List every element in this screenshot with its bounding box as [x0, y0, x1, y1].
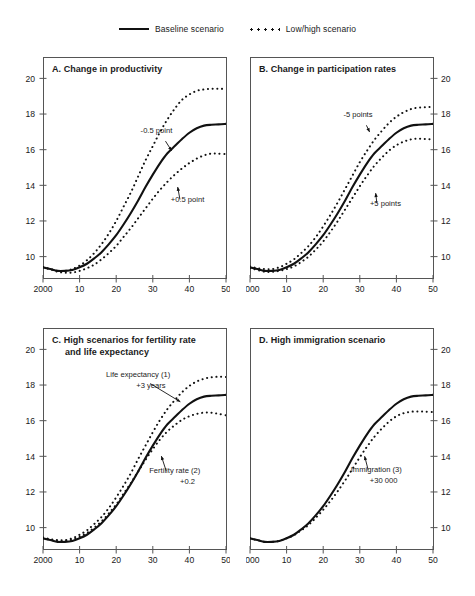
- y-tick-label: 12: [25, 216, 35, 226]
- chart-panel-a: 10121416182020001020304050A. Change in p…: [15, 55, 230, 294]
- chart-annotation-label: Life expectancy (1): [106, 370, 171, 379]
- y-tick-label: 20: [441, 74, 451, 84]
- annotation-arrow-head: [161, 456, 164, 460]
- panel-title: D. High immigration scenario: [259, 335, 386, 345]
- y-tick-label: 12: [441, 487, 451, 497]
- chart-svg-b: 10121416182020001020304050B. Change in p…: [246, 55, 463, 294]
- panel-title: A. Change in productivity: [52, 64, 162, 74]
- panel-title-line: C. High scenarios for fertility rate: [52, 335, 196, 345]
- panel-title-line: B. Change in participation rates: [259, 64, 396, 74]
- x-tick-label: 2000: [246, 555, 260, 565]
- y-tick-label: 16: [25, 145, 35, 155]
- legend-label-lowhigh: Low/high scenario: [286, 24, 356, 34]
- figure-root: Baseline scenario Low/high scenario 1012…: [0, 0, 475, 596]
- panel-title: B. Change in participation rates: [259, 64, 396, 74]
- legend-label-baseline: Baseline scenario: [155, 24, 224, 34]
- chart-annotation-label: +0.5 point: [171, 195, 205, 204]
- x-tick-label: 50: [428, 284, 438, 294]
- plot-frame: [251, 329, 434, 550]
- y-tick-label: 20: [25, 345, 35, 355]
- chart-annotation-label: +30 000: [370, 476, 398, 485]
- y-tick-label: 18: [25, 109, 35, 119]
- y-tick-label: 10: [25, 252, 35, 262]
- y-tick-label: 12: [25, 487, 35, 497]
- chart-annotation-label: +0.2: [180, 477, 195, 486]
- series-line-scenario: [43, 377, 226, 540]
- legend-item-baseline: Baseline scenario: [119, 24, 224, 34]
- y-tick-label: 16: [441, 416, 451, 426]
- dotted-line-icon: [250, 28, 280, 31]
- annotation-arrow-head: [177, 187, 180, 191]
- panel-title: C. High scenarios for fertility rateand …: [52, 335, 196, 357]
- x-tick-label: 50: [428, 555, 438, 565]
- series-group: [250, 107, 433, 272]
- x-tick-label: 2000: [33, 555, 52, 565]
- y-tick-label: 16: [25, 416, 35, 426]
- chart-annotation-label: +5 points: [370, 199, 401, 208]
- figure-legend: Baseline scenario Low/high scenario: [0, 20, 475, 38]
- y-tick-label: 10: [25, 523, 35, 533]
- x-tick-label: 10: [282, 555, 292, 565]
- x-tick-label: 20: [318, 555, 328, 565]
- panel-title-line: D. High immigration scenario: [259, 335, 386, 345]
- y-tick-label: 10: [441, 523, 451, 533]
- series-group: [43, 377, 226, 542]
- y-tick-label: 14: [25, 452, 35, 462]
- y-tick-label: 20: [441, 345, 451, 355]
- x-tick-label: 50: [221, 555, 230, 565]
- x-tick-label: 10: [75, 284, 85, 294]
- chart-annotation-label: -0.5 point: [141, 126, 174, 135]
- y-tick-label: 18: [25, 380, 35, 390]
- x-tick-label: 20: [318, 284, 328, 294]
- chart-annotation-label: -5 points: [343, 110, 372, 119]
- x-tick-label: 50: [221, 284, 230, 294]
- plot-frame: [44, 329, 227, 550]
- series-line-baseline: [250, 395, 433, 542]
- panel-title-line: A. Change in productivity: [52, 64, 162, 74]
- plot-frame: [251, 58, 434, 279]
- x-tick-label: 20: [111, 555, 121, 565]
- x-tick-label: 20: [111, 284, 121, 294]
- solid-line-icon: [119, 28, 149, 30]
- x-tick-label: 30: [148, 284, 158, 294]
- y-tick-label: 10: [441, 252, 451, 262]
- y-tick-label: 18: [441, 380, 451, 390]
- y-tick-label: 12: [441, 216, 451, 226]
- x-tick-label: 10: [282, 284, 292, 294]
- x-tick-label: 40: [185, 555, 195, 565]
- chart-svg-a: 10121416182020001020304050A. Change in p…: [15, 55, 230, 294]
- chart-svg-d: 10121416182020001020304050D. High immigr…: [246, 326, 463, 565]
- x-tick-label: 30: [148, 555, 158, 565]
- x-tick-label: 40: [392, 555, 402, 565]
- x-tick-label: 30: [355, 284, 365, 294]
- x-tick-label: 2000: [33, 284, 52, 294]
- chart-annotation-label: Fertility rate (2): [149, 466, 201, 475]
- chart-annotation-label: +3 years: [136, 381, 166, 390]
- y-tick-label: 14: [441, 452, 451, 462]
- series-line-scenario: [43, 153, 226, 272]
- y-tick-label: 14: [25, 181, 35, 191]
- y-tick-label: 18: [441, 109, 451, 119]
- series-line-baseline: [250, 124, 433, 271]
- y-tick-label: 16: [441, 145, 451, 155]
- series-group: [250, 395, 433, 542]
- y-tick-label: 14: [441, 181, 451, 191]
- chart-panel-c: 10121416182020001020304050C. High scenar…: [15, 326, 230, 565]
- series-group: [43, 89, 226, 273]
- x-tick-label: 40: [185, 284, 195, 294]
- x-tick-label: 40: [392, 284, 402, 294]
- chart-annotation-label: Immigration (3): [351, 465, 403, 474]
- series-line-scenario: [250, 107, 433, 269]
- series-line-scenario: [43, 89, 226, 271]
- chart-svg-c: 10121416182020001020304050C. High scenar…: [15, 326, 230, 565]
- panel-title-line: and life expectancy: [65, 347, 149, 357]
- x-tick-label: 2000: [246, 284, 260, 294]
- chart-panel-b: 10121416182020001020304050B. Change in p…: [246, 55, 463, 294]
- legend-item-lowhigh: Low/high scenario: [250, 24, 356, 34]
- y-tick-label: 20: [25, 74, 35, 84]
- chart-panel-d: 10121416182020001020304050D. High immigr…: [246, 326, 463, 565]
- x-tick-label: 10: [75, 555, 85, 565]
- x-tick-label: 30: [355, 555, 365, 565]
